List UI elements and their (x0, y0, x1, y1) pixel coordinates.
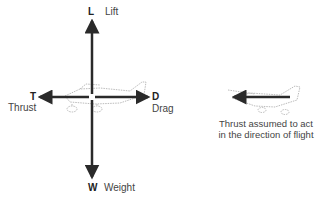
caption-line-2: in the direction of flight (211, 129, 321, 140)
aircraft-climbing-icon (228, 86, 300, 115)
force-diagram (0, 0, 329, 199)
caption-line-1: Thrust assumed to act (211, 118, 321, 129)
lift-label: Lift (105, 6, 118, 17)
drag-label: Drag (152, 103, 174, 114)
thrust-symbol: T (30, 91, 36, 102)
thrust-label: Thrust (8, 102, 36, 113)
caption: Thrust assumed to act in the direction o… (211, 118, 321, 140)
weight-label: Weight (104, 182, 135, 193)
drag-symbol: D (152, 91, 159, 102)
weight-symbol: W (88, 182, 97, 193)
lift-symbol: L (88, 6, 94, 17)
